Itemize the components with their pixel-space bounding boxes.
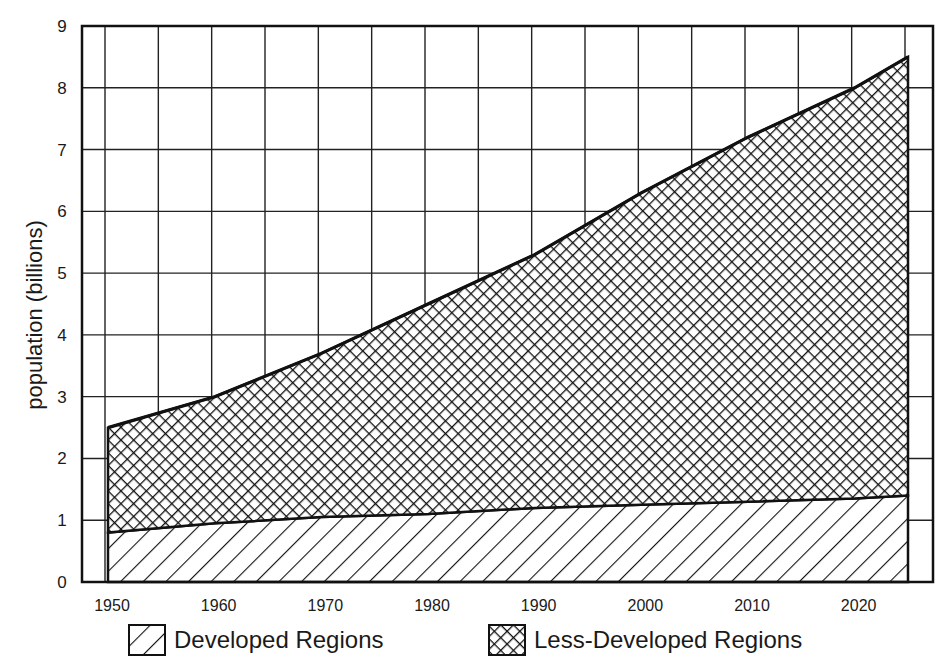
x-tick-label: 1970: [308, 597, 344, 614]
x-tick-label: 1990: [521, 597, 557, 614]
y-tick-label: 5: [57, 264, 66, 283]
legend-item-developed: Developed Regions: [128, 624, 383, 656]
y-tick-label: 3: [57, 388, 66, 407]
y-tick-label: 1: [57, 511, 66, 530]
x-axis-ticks: 19501960197019801990200020102020: [94, 597, 876, 614]
population-area-chart: 0123456789 19501960197019801990200020102…: [0, 0, 949, 620]
diagonal-hatch-swatch-icon: [128, 624, 166, 656]
y-tick-label: 4: [57, 326, 66, 345]
x-tick-label: 1980: [414, 597, 450, 614]
x-tick-label: 2000: [628, 597, 664, 614]
cross-hatch-swatch-icon: [488, 624, 526, 656]
x-tick-label: 1960: [201, 597, 237, 614]
x-tick-label: 2010: [734, 597, 770, 614]
x-tick-label: 1950: [94, 597, 130, 614]
y-tick-label: 2: [57, 449, 66, 468]
legend-item-less-developed: Less-Developed Regions: [488, 624, 802, 656]
less-developed-regions-area: [108, 57, 908, 533]
legend-label-less-developed: Less-Developed Regions: [534, 626, 802, 654]
stacked-areas: [108, 57, 908, 582]
x-tick-label: 2020: [841, 597, 877, 614]
y-tick-label: 8: [57, 79, 66, 98]
y-axis-ticks: 0123456789: [57, 17, 66, 592]
legend-label-developed: Developed Regions: [174, 626, 383, 654]
y-axis-label: population (billions): [22, 220, 48, 410]
y-tick-label: 0: [57, 573, 66, 592]
y-tick-label: 9: [57, 17, 66, 36]
y-tick-label: 6: [57, 202, 66, 221]
y-tick-label: 7: [57, 141, 66, 160]
legend: Developed Regions Less-Developed Regions: [0, 624, 949, 668]
